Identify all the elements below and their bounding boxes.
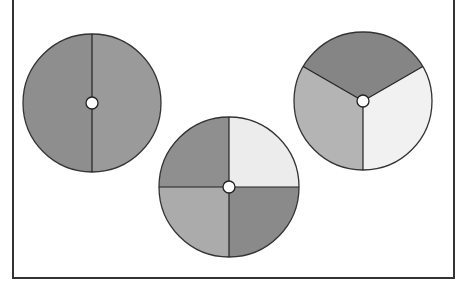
sector-right-half: [92, 34, 161, 172]
hub-icon: [357, 95, 369, 107]
hub-icon: [86, 97, 98, 109]
hub-icon: [223, 181, 235, 193]
sector-top-left: [159, 117, 229, 187]
sector-bottom-right: [229, 187, 299, 257]
sector-left-half: [23, 34, 92, 172]
disc-quarters: [159, 117, 299, 257]
discs-diagram: [0, 0, 459, 284]
disc-halves: [23, 34, 161, 172]
sector-top-right: [229, 117, 299, 187]
sector-bottom-left: [159, 187, 229, 257]
disc-thirds: [294, 32, 432, 170]
